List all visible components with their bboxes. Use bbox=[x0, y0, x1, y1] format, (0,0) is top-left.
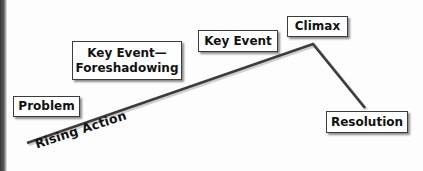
resolution-box: Resolution bbox=[326, 111, 408, 133]
problem-box: Problem bbox=[13, 96, 80, 117]
plot-line bbox=[0, 0, 423, 171]
plot-diagram: Problem Key Event— Foreshadowing Key Eve… bbox=[0, 0, 423, 171]
resolution-label: Resolution bbox=[331, 115, 403, 129]
problem-label: Problem bbox=[18, 99, 74, 113]
climax-box: Climax bbox=[287, 16, 348, 37]
foreshadowing-box: Key Event— Foreshadowing bbox=[72, 41, 182, 80]
key-event-box: Key Event bbox=[198, 30, 278, 52]
key-event-label: Key Event bbox=[204, 34, 272, 48]
climax-label: Climax bbox=[295, 19, 340, 33]
foreshadowing-label-line1: Key Event— bbox=[87, 46, 167, 60]
foreshadowing-label-line2: Foreshadowing bbox=[76, 61, 179, 75]
